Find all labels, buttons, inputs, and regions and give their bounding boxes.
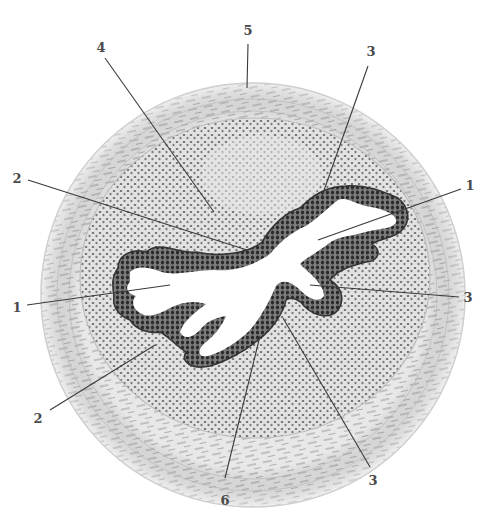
leader-line-5: [247, 44, 248, 88]
label-3-right: 3: [463, 291, 472, 304]
label-5-top: 5: [243, 24, 252, 37]
label-2-left-upper: 2: [12, 172, 21, 185]
label-3-top-right: 3: [366, 45, 375, 58]
label-1-right: 1: [465, 179, 474, 192]
histology-section-figure: [0, 0, 493, 519]
label-2-lower-left: 2: [33, 412, 42, 425]
label-3-bottom-right: 3: [368, 474, 377, 487]
label-4-top: 4: [96, 41, 105, 54]
label-6-bottom: 6: [220, 494, 229, 507]
label-1-left: 1: [12, 301, 21, 314]
